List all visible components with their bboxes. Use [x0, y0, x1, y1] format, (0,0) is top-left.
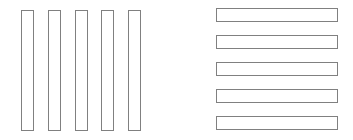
bar-h4	[216, 89, 338, 103]
bar-v2	[48, 10, 61, 131]
bar-h1	[216, 8, 338, 22]
bar-v4	[101, 10, 114, 131]
bar-h2	[216, 35, 338, 49]
figure-canvas	[0, 0, 353, 140]
bar-v1	[21, 10, 34, 131]
bar-v3	[75, 10, 88, 131]
bar-h3	[216, 62, 338, 76]
bar-v5	[128, 10, 141, 131]
bar-h5	[216, 116, 338, 130]
